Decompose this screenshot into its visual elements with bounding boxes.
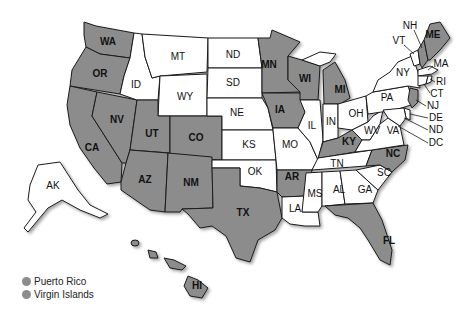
label-NY: NY <box>396 67 410 78</box>
label-MT: MT <box>171 51 185 62</box>
label-IL: IL <box>308 120 317 131</box>
label-DE: DE <box>429 112 443 123</box>
label-SD: SD <box>226 77 240 88</box>
label-OR: OR <box>93 68 109 79</box>
legend-item-virgin-islands: Virgin Islands <box>22 288 94 301</box>
label-IA: IA <box>275 104 285 115</box>
map-svg: WA OR CA NV ID MT WY UT CO AZ NM ND SD N… <box>0 0 469 319</box>
label-ND: ND <box>226 49 240 60</box>
label-WV: WV <box>364 125 380 136</box>
legend-label: Puerto Rico <box>34 276 86 287</box>
label-VT: VT <box>393 35 406 46</box>
legend-dot-icon <box>22 290 31 299</box>
label-TN: TN <box>330 158 343 169</box>
label-MO: MO <box>282 139 298 150</box>
label-HI: HI <box>192 280 202 291</box>
label-RI: RI <box>436 76 446 87</box>
label-UT: UT <box>145 128 158 139</box>
label-MA: MA <box>434 58 449 69</box>
label-NE: NE <box>230 107 244 118</box>
legend-dot-icon <box>22 277 31 286</box>
label-CT: CT <box>430 88 443 99</box>
label-OK: OK <box>248 166 263 177</box>
label-KS: KS <box>242 139 256 150</box>
label-FL: FL <box>383 235 395 246</box>
label-VA: VA <box>387 125 400 136</box>
label-NJ: NJ <box>427 100 439 111</box>
label-AK: AK <box>46 180 60 191</box>
label-LA: LA <box>289 203 302 214</box>
state-HI-1[interactable] <box>131 240 139 246</box>
label-MI: MI <box>334 84 345 95</box>
state-AK[interactable] <box>24 162 108 232</box>
label-MS: MS <box>308 188 323 199</box>
label-KY: KY <box>342 136 356 147</box>
label-WA: WA <box>100 36 116 47</box>
us-states-map: WA OR CA NV ID MT WY UT CO AZ NM ND SD N… <box>0 0 469 319</box>
label-AR: AR <box>285 171 300 182</box>
label-PA: PA <box>381 92 394 103</box>
state-HI-2[interactable] <box>148 250 158 258</box>
label-NC: NC <box>386 148 400 159</box>
label-OH: OH <box>349 108 364 119</box>
label-NV: NV <box>110 114 124 125</box>
label-NH: NH <box>403 20 417 31</box>
label-MN: MN <box>261 59 277 70</box>
state-HI-3[interactable] <box>164 258 186 270</box>
label-SC: SC <box>377 167 391 178</box>
label-IN: IN <box>326 116 336 127</box>
label-DC: DC <box>429 137 443 148</box>
label-AZ: AZ <box>138 174 151 185</box>
label-CA: CA <box>85 142 99 153</box>
label-TX: TX <box>237 207 250 218</box>
legend-label: Virgin Islands <box>34 289 94 300</box>
label-AL: AL <box>333 184 346 195</box>
label-ID: ID <box>131 79 141 90</box>
legend: Puerto Rico Virgin Islands <box>22 275 94 301</box>
label-CO: CO <box>189 132 204 143</box>
label-NM: NM <box>183 177 199 188</box>
legend-item-puerto-rico: Puerto Rico <box>22 275 94 288</box>
label-GA: GA <box>358 184 373 195</box>
label-WI: WI <box>299 73 311 84</box>
label-MD: ND <box>429 124 443 135</box>
label-WY: WY <box>177 91 193 102</box>
label-ME: ME <box>426 29 441 40</box>
